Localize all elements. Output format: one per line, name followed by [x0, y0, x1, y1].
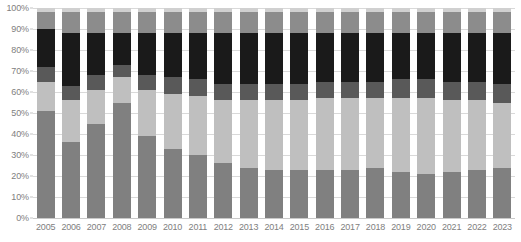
bar-segment	[341, 82, 359, 99]
y-axis: 0%10%20%30%40%50%60%70%80%90%100%	[0, 0, 33, 226]
bar-group[interactable]	[417, 8, 435, 218]
bar-segment	[37, 12, 55, 29]
bar-segment	[493, 168, 511, 218]
bar-group[interactable]	[392, 8, 410, 218]
bar-segment	[417, 79, 435, 98]
bar-segment	[164, 149, 182, 218]
y-tick-label: 40%	[11, 129, 29, 139]
bar-group[interactable]	[240, 8, 258, 218]
bar-group[interactable]	[164, 8, 182, 218]
bar-segment	[113, 65, 131, 78]
bar-segment	[443, 82, 461, 101]
bar-group[interactable]	[443, 8, 461, 218]
bar-segment	[468, 170, 486, 218]
x-tick-label: 2007	[87, 222, 106, 232]
bar-stack	[265, 8, 283, 218]
bar-segment	[265, 33, 283, 83]
bar-segment	[164, 94, 182, 149]
bar-stack	[290, 8, 308, 218]
bar-group[interactable]	[265, 8, 283, 218]
bar-segment	[164, 33, 182, 77]
bar-segment	[265, 12, 283, 33]
bar-group[interactable]	[290, 8, 308, 218]
bar-segment	[240, 84, 258, 101]
y-tick-label: 70%	[11, 66, 29, 76]
bar-segment	[366, 82, 384, 99]
y-tick-label: 50%	[11, 108, 29, 118]
bar-segment	[468, 100, 486, 169]
bar-segment	[62, 86, 80, 101]
bar-segment	[341, 170, 359, 218]
x-tick-label: 2010	[163, 222, 182, 232]
bar-segment	[189, 155, 207, 218]
x-tick-label: 2023	[493, 222, 512, 232]
bar-stack	[468, 8, 486, 218]
bar-segment	[417, 33, 435, 79]
bar-segment	[392, 172, 410, 218]
bar-stack	[316, 8, 334, 218]
bar-stack	[366, 8, 384, 218]
bar-segment	[443, 12, 461, 33]
bar-segment	[265, 84, 283, 101]
bar-segment	[138, 75, 156, 90]
bar-group[interactable]	[138, 8, 156, 218]
bar-stack	[493, 8, 511, 218]
bar-segment	[366, 33, 384, 81]
x-tick-label: 2014	[264, 222, 283, 232]
bar-group[interactable]	[316, 8, 334, 218]
bar-segment	[214, 163, 232, 218]
x-tick-label: 2005	[36, 222, 55, 232]
bar-group[interactable]	[87, 8, 105, 218]
bar-stack	[417, 8, 435, 218]
bar-group[interactable]	[366, 8, 384, 218]
bar-segment	[392, 79, 410, 98]
bar-group[interactable]	[214, 8, 232, 218]
bar-segment	[87, 124, 105, 219]
bar-segment	[113, 77, 131, 102]
bar-segment	[240, 100, 258, 167]
bar-segment	[214, 33, 232, 83]
bar-segment	[37, 29, 55, 67]
bar-group[interactable]	[341, 8, 359, 218]
bar-segment	[37, 67, 55, 82]
bar-segment	[113, 12, 131, 33]
bar-segment	[290, 12, 308, 33]
x-tick-label: 2018	[366, 222, 385, 232]
bar-segment	[366, 98, 384, 167]
bar-segment	[392, 12, 410, 33]
bar-segment	[138, 33, 156, 75]
bar-segment	[138, 12, 156, 33]
x-axis: 2005200620072008200920102011201220132014…	[33, 222, 515, 242]
bar-segment	[240, 12, 258, 33]
bar-segment	[62, 33, 80, 86]
x-tick-label: 2013	[239, 222, 258, 232]
bar-segment	[493, 103, 511, 168]
bar-segment	[240, 33, 258, 83]
bar-segment	[493, 12, 511, 33]
bar-segment	[138, 90, 156, 136]
x-tick-label: 2022	[467, 222, 486, 232]
bar-group[interactable]	[37, 8, 55, 218]
bar-segment	[138, 136, 156, 218]
bar-segment	[366, 168, 384, 218]
bar-segment	[189, 96, 207, 155]
bar-segment	[443, 100, 461, 171]
bar-segment	[341, 33, 359, 81]
bar-segment	[417, 174, 435, 218]
gridline	[33, 218, 515, 219]
bar-segment	[265, 170, 283, 218]
bar-segment	[62, 142, 80, 218]
bar-segment	[392, 98, 410, 172]
bar-segment	[316, 82, 334, 99]
bar-segment	[214, 12, 232, 33]
x-tick-label: 2016	[315, 222, 334, 232]
bar-group[interactable]	[189, 8, 207, 218]
bar-segment	[37, 111, 55, 218]
bar-group[interactable]	[113, 8, 131, 218]
bar-stack	[214, 8, 232, 218]
bar-segment	[113, 103, 131, 219]
bar-segment	[341, 12, 359, 33]
bar-group[interactable]	[468, 8, 486, 218]
bar-group[interactable]	[493, 8, 511, 218]
bar-group[interactable]	[62, 8, 80, 218]
